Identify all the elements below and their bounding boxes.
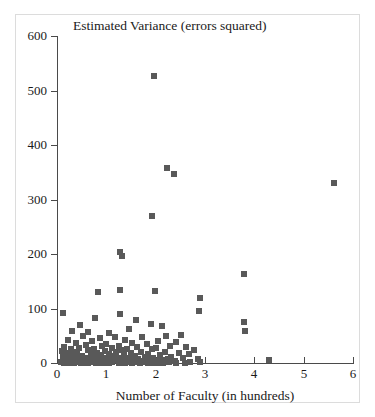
x-tick-mark	[254, 357, 255, 364]
data-point	[119, 253, 125, 259]
x-tick-mark	[304, 357, 305, 364]
data-point	[80, 360, 86, 366]
y-tick-label: 600	[7, 29, 47, 42]
data-point	[242, 328, 248, 334]
data-point	[137, 360, 143, 366]
data-point	[126, 326, 132, 332]
data-point	[116, 360, 122, 366]
y-tick-mark	[51, 363, 58, 364]
data-point	[61, 360, 67, 366]
x-tick-label: 6	[338, 367, 368, 380]
data-point	[93, 360, 99, 366]
data-point	[112, 334, 118, 340]
chart-title: Estimated Variance (errors squared)	[73, 18, 267, 34]
data-point	[331, 180, 337, 186]
data-point	[163, 333, 169, 339]
data-point	[173, 360, 179, 366]
data-point	[95, 289, 101, 295]
data-point	[106, 330, 112, 336]
data-point	[60, 310, 66, 316]
data-point	[151, 73, 157, 79]
data-point	[149, 213, 155, 219]
data-point	[80, 333, 86, 339]
y-tick-label: 100	[7, 302, 47, 315]
data-point	[171, 171, 177, 177]
data-point	[122, 337, 128, 343]
x-axis-title: Number of Faculty (in hundreds)	[57, 388, 353, 404]
data-point	[89, 338, 95, 344]
data-point	[117, 287, 123, 293]
data-point	[77, 322, 83, 328]
data-point	[139, 334, 145, 340]
data-point	[129, 360, 135, 366]
data-point	[155, 338, 161, 344]
data-point	[155, 360, 161, 366]
data-point	[122, 360, 128, 366]
y-tick-label: 500	[7, 84, 47, 97]
data-point	[197, 295, 203, 301]
data-point	[183, 344, 189, 350]
data-point	[186, 351, 192, 357]
scatter-plot: Estimated Variance (errors squared) 0100…	[0, 0, 375, 417]
data-point	[178, 332, 184, 338]
x-tick-label: 5	[289, 367, 319, 380]
x-tick-label: 3	[190, 367, 220, 380]
data-point	[197, 359, 203, 365]
data-point	[133, 317, 139, 323]
x-tick-label: 1	[91, 367, 121, 380]
y-tick-label: 400	[7, 138, 47, 151]
data-point	[159, 323, 165, 329]
data-point	[71, 360, 77, 366]
data-point	[117, 311, 123, 317]
y-tick-mark	[51, 36, 58, 37]
y-tick-mark	[51, 145, 58, 146]
data-point	[65, 337, 71, 343]
data-point	[241, 271, 247, 277]
y-tick-label: 200	[7, 247, 47, 260]
y-tick-mark	[51, 91, 58, 92]
x-tick-mark	[353, 357, 354, 364]
x-tick-label: 2	[141, 367, 171, 380]
y-tick-mark	[51, 254, 58, 255]
y-tick-mark	[51, 200, 58, 201]
data-point	[167, 343, 173, 349]
data-point	[69, 328, 75, 334]
data-point	[152, 288, 158, 294]
data-point	[92, 315, 98, 321]
data-point	[166, 359, 172, 365]
data-point	[241, 319, 247, 325]
data-point	[99, 360, 105, 366]
x-tick-label: 4	[239, 367, 269, 380]
y-tick-label: 0	[7, 356, 47, 369]
data-point	[182, 360, 188, 366]
x-tick-mark	[205, 357, 206, 364]
data-point	[173, 339, 179, 345]
x-tick-label: 0	[42, 367, 72, 380]
data-point	[106, 360, 112, 366]
data-point	[196, 308, 202, 314]
y-tick-label: 300	[7, 193, 47, 206]
data-point	[148, 321, 154, 327]
data-point	[164, 165, 170, 171]
data-point	[266, 357, 272, 363]
y-tick-mark	[51, 309, 58, 310]
